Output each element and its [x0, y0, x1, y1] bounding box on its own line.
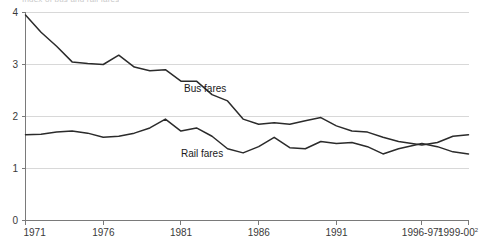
x-axis-label-1971: 1971: [24, 228, 46, 238]
series-label-bus-fares: Bus fares: [184, 84, 226, 94]
x-axis-label-1991: 1991: [325, 228, 347, 238]
footnote-marker: 2: [475, 226, 478, 232]
series-line-bus-fares: [26, 15, 469, 145]
y-axis-label-2: 2: [4, 112, 18, 122]
x-axis-label-1999-00: 1999-002: [438, 228, 478, 238]
chart-plot-area: [0, 0, 480, 248]
series-label-rail-fares: Rail fares: [181, 149, 223, 159]
chart-container: Index of bus and rail fares 01234 197119…: [0, 0, 480, 248]
x-axis-label-1986: 1986: [248, 228, 270, 238]
y-axis-label-1: 1: [4, 164, 18, 174]
series-line-rail-fares: [26, 119, 469, 154]
x-axis-label-1981: 1981: [170, 228, 192, 238]
x-axis-label-1976: 1976: [92, 228, 114, 238]
x-axis-label-1996-97: 1996-972: [402, 228, 442, 238]
y-axis-label-4: 4: [4, 8, 18, 18]
y-axis-label-3: 3: [4, 60, 18, 70]
y-axis-label-0: 0: [4, 216, 18, 226]
